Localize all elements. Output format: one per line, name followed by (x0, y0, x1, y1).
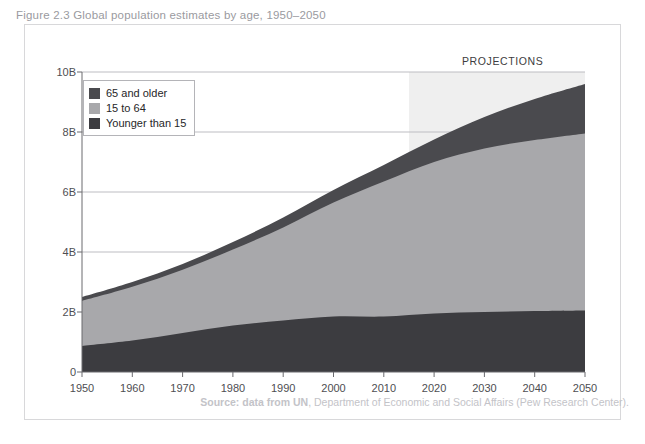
legend-label-younger: Younger than 15 (106, 117, 186, 129)
legend-label-working: 15 to 64 (106, 102, 146, 114)
y-tick-label: 4B (30, 246, 76, 258)
y-tick-label: 8B (30, 126, 76, 138)
x-tick-label: 1970 (170, 382, 194, 394)
legend-item-older: 65 and older (89, 86, 186, 100)
x-tick-label: 1950 (70, 382, 94, 394)
chart-legend: 65 and older 15 to 64 Younger than 15 (83, 80, 195, 136)
source-note: Source: data from UN, Department of Econ… (0, 396, 629, 408)
x-tick-label: 2000 (321, 382, 345, 394)
x-tick-label: 2010 (372, 382, 396, 394)
y-tick-label: 6B (30, 186, 76, 198)
x-tick-label: 1990 (271, 382, 295, 394)
source-prefix: Source: data from UN (200, 396, 308, 408)
x-tick-label: 2040 (522, 382, 546, 394)
x-tick-label: 1980 (221, 382, 245, 394)
x-tick-label: 2020 (422, 382, 446, 394)
stacked-area-chart (0, 0, 645, 444)
y-tick-label: 2B (30, 306, 76, 318)
y-tick-label: 10B (30, 66, 76, 78)
legend-swatch-older (89, 88, 100, 99)
legend-swatch-younger (89, 118, 100, 129)
projections-annotation: PROJECTIONS (462, 55, 543, 67)
x-tick-label: 2050 (573, 382, 597, 394)
source-rest: , Department of Economic and Social Affa… (308, 396, 629, 408)
legend-item-working: 15 to 64 (89, 101, 186, 115)
legend-swatch-working (89, 103, 100, 114)
legend-item-younger: Younger than 15 (89, 116, 186, 130)
x-tick-label: 2030 (472, 382, 496, 394)
chart-plot-area: 02B4B6B8B10B1950196019701980199020002010… (0, 0, 645, 444)
legend-label-older: 65 and older (106, 87, 167, 99)
x-tick-label: 1960 (120, 382, 144, 394)
y-tick-label: 0 (30, 366, 76, 378)
